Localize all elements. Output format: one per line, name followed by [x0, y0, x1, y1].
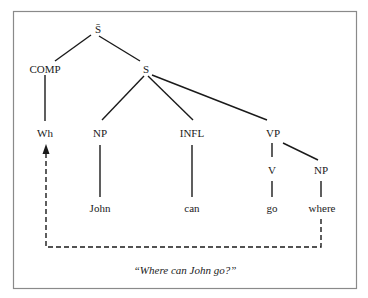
node-np-object: NP	[314, 164, 328, 176]
node-np-subject: NP	[93, 127, 107, 139]
node-wh: Wh	[37, 127, 53, 139]
node-root: S̄	[95, 23, 101, 35]
node-v: V	[268, 164, 276, 176]
node-vp: VP	[266, 127, 280, 139]
caption: “Where can John go?”	[134, 264, 237, 276]
word-go: go	[267, 202, 279, 214]
word-can: can	[184, 202, 200, 214]
syntax-tree-diagram: S̄ COMP S Wh NP INFL VP V NP John can go…	[0, 0, 368, 298]
word-john: John	[90, 202, 111, 214]
word-where: where	[309, 202, 336, 214]
node-comp: COMP	[29, 63, 60, 75]
node-s: S	[143, 63, 149, 75]
node-infl: INFL	[180, 127, 205, 139]
